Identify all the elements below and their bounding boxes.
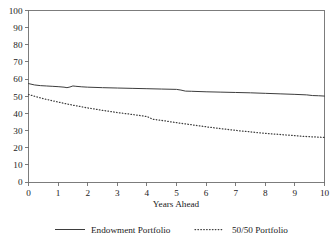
y-tick-label: 50 <box>13 92 23 102</box>
x-tick-label: 5 <box>174 188 179 198</box>
y-tick-label: 60 <box>13 74 23 84</box>
x-tick-label: 8 <box>263 188 268 198</box>
legend: Endowment Portfolio 50/50 Portfolio <box>55 225 288 235</box>
line-chart: 0102030405060708090100 012345678910 Year… <box>0 0 334 240</box>
y-tick-label: 10 <box>13 160 23 170</box>
x-tick-label: 7 <box>233 188 238 198</box>
x-tick-label: 0 <box>26 188 31 198</box>
x-axis-title: Years Ahead <box>153 199 200 209</box>
y-tick-label: 20 <box>13 143 23 153</box>
legend-label-endowment-portfolio: Endowment Portfolio <box>91 225 171 235</box>
y-tick-label: 80 <box>13 40 23 50</box>
legend-label-5050-portfolio: 50/50 Portfolio <box>232 225 288 235</box>
x-tick-label: 2 <box>85 188 90 198</box>
y-tick-label: 40 <box>13 109 23 119</box>
y-tick-label: 70 <box>13 57 23 67</box>
y-tick-label: 0 <box>18 177 23 187</box>
chart-figure: 0102030405060708090100 012345678910 Year… <box>0 0 334 240</box>
plot-frame <box>29 11 325 183</box>
y-axis: 0102030405060708090100 <box>9 6 29 188</box>
y-tick-label: 100 <box>9 6 23 16</box>
plot-area-border <box>29 11 325 183</box>
x-tick-label: 6 <box>204 188 209 198</box>
y-tick-label: 30 <box>13 126 23 136</box>
x-tick-label: 3 <box>115 188 120 198</box>
x-tick-label: 1 <box>56 188 61 198</box>
x-tick-label: 4 <box>145 188 150 198</box>
y-tick-label: 90 <box>13 23 23 33</box>
x-tick-label: 10 <box>320 188 330 198</box>
x-tick-label: 9 <box>293 188 298 198</box>
x-axis: 012345678910 <box>26 182 329 198</box>
